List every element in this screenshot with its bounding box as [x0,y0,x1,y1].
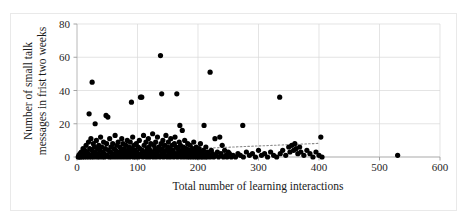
data-point [98,134,103,139]
data-point [141,133,146,138]
data-point [130,134,135,139]
data-point [160,138,165,143]
y-tick-label-40: 40 [59,85,71,97]
x-tick-label-500: 500 [371,161,388,173]
x-axis-tick-labels: 0100200300400500600 [74,161,449,173]
data-point [163,133,168,138]
data-point [265,154,270,159]
data-point [87,111,92,116]
y-tick-label-20: 20 [59,118,71,130]
y-axis-ticks [74,24,78,157]
data-point [395,153,400,158]
data-point [159,91,164,96]
x-tick-label-200: 200 [190,161,207,173]
data-point [241,154,246,159]
x-tick-label-0: 0 [74,161,80,173]
y-axis-title-line1: Number of small talk [22,42,34,140]
data-point [146,136,151,141]
data-point [105,115,110,120]
data-point [158,53,163,58]
y-axis-title-line2: messages in frist two weeks [36,26,49,155]
data-point [208,70,213,75]
data-point [93,121,98,126]
data-point [217,134,222,139]
data-point [240,123,245,128]
x-tick-label-600: 600 [432,161,449,173]
data-point [310,154,315,159]
y-tick-label-80: 80 [59,18,71,30]
data-point [220,143,225,148]
x-tick-label-400: 400 [311,161,328,173]
data-point [150,131,155,136]
data-point [253,154,258,159]
y-tick-label-0: 0 [65,151,71,163]
data-point [256,148,261,153]
data-point [212,136,217,141]
data-point [153,139,158,144]
y-tick-label-60: 60 [59,51,71,63]
data-point [319,154,324,159]
data-point [203,144,208,149]
data-point [172,134,177,139]
x-axis-title: Total number of learning interactions [172,180,344,193]
data-point [177,123,182,128]
data-point-group [76,53,401,160]
data-point [283,153,288,158]
data-point [90,80,95,85]
data-point [280,148,285,153]
data-point [318,134,323,139]
data-point [191,139,196,144]
data-point [174,91,179,96]
data-point [155,134,160,139]
data-point [198,141,203,146]
scatter-chart: 0100200300400500600 020406080 Total numb… [0,0,468,224]
data-point [94,138,99,143]
data-point [119,136,124,141]
data-point [137,138,142,143]
data-point [113,133,118,138]
data-point [277,95,282,100]
data-point [107,136,112,141]
data-point [129,100,134,105]
figure-container: 0100200300400500600 020406080 Total numb… [0,0,468,224]
x-tick-label-100: 100 [129,161,146,173]
data-point [301,153,306,158]
y-axis-tick-labels: 020406080 [59,18,71,163]
data-point [180,128,185,133]
data-point [297,144,302,149]
data-point [88,136,93,141]
data-point [292,141,297,146]
data-point [201,123,206,128]
data-point [139,95,144,100]
x-tick-label-300: 300 [250,161,267,173]
data-point [104,141,109,146]
